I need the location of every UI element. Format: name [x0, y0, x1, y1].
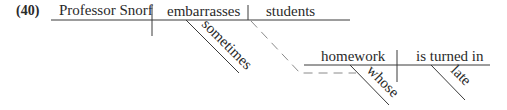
sentence-diagram: (40) Professor Snorf embarrasses student… [0, 0, 507, 110]
example-number: (40) [16, 3, 40, 19]
relative-verb: is turned in [416, 48, 484, 64]
main-subject: Professor Snorf [59, 2, 153, 18]
relative-verb-modifier: late [448, 62, 475, 89]
main-verb: embarrasses [167, 3, 240, 19]
verb-modifier: sometimes [199, 16, 256, 73]
direct-object: students [266, 3, 315, 19]
